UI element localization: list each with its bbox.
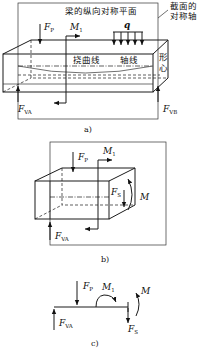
moment-m1-arrow-c — [96, 295, 116, 307]
force-fp-label-b: FP — [77, 152, 88, 163]
deflection-curve — [18, 66, 153, 73]
axis-label: 轴线 — [120, 55, 138, 65]
moment-m-arrow-c — [136, 293, 139, 316]
centroid-label-1: 形 — [159, 52, 168, 62]
panel-b: FP M1 FS M FVA b) — [35, 142, 166, 264]
centroid-label-2: 心 — [159, 63, 168, 73]
moment-m1-label-c: M1 — [101, 282, 115, 293]
reaction-fva-label: FVA — [17, 104, 33, 115]
reaction-fva-label-b: FVA — [54, 231, 70, 242]
force-fp-label: FP — [43, 22, 54, 33]
moment-m-label-c: M — [140, 286, 151, 296]
reaction-fvb-label: FVB — [162, 104, 177, 115]
shear-fs-label-c: FS — [127, 324, 138, 335]
load-q-label: q — [124, 20, 130, 30]
plane-label: 梁的纵向对称平面 — [65, 6, 137, 16]
deflection-curve-label: 挠曲线 — [73, 55, 100, 65]
axis-of-symmetry-label-1: 截面的 — [170, 1, 197, 11]
moment-m-label-b: M — [139, 192, 150, 202]
force-fp-label-c: FP — [82, 281, 93, 292]
caption-a: a) — [84, 125, 92, 134]
moment-m1-label: M1 — [69, 22, 83, 33]
panel-c: FP M1 FS M FVA c) — [54, 281, 151, 348]
shear-fs-label-b: FS — [110, 187, 121, 198]
caption-c: c) — [91, 339, 99, 348]
caption-b: b) — [101, 255, 109, 264]
moment-m1-label-b: M1 — [102, 146, 116, 157]
beam-bending-diagram: 梁的纵向对称平面 截面的 对称轴 挠曲线 轴线 形 心 FP — [0, 0, 212, 358]
axis-of-symmetry-leader — [158, 10, 168, 18]
reaction-fva-label-c: FVA — [58, 318, 74, 329]
axis-of-symmetry-label-2: 对称轴 — [170, 11, 197, 21]
panel-a: 梁的纵向对称平面 截面的 对称轴 挠曲线 轴线 形 心 FP — [3, 1, 197, 134]
distributed-load-q — [113, 32, 143, 45]
